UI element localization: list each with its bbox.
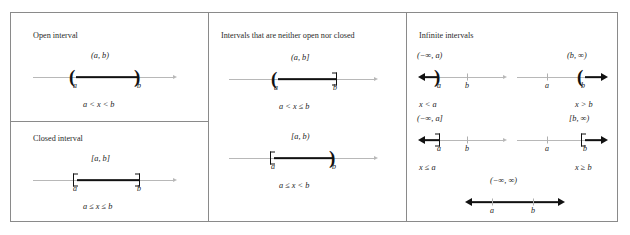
heading-infinite-intervals: Infinite intervals xyxy=(419,31,473,40)
notation-open: (a, b) xyxy=(91,51,109,60)
endpoint-label-b: b xyxy=(332,162,336,171)
numberline-neg-inf-open-a: ) a b xyxy=(417,67,515,87)
endpoint-label-a: a xyxy=(271,162,275,171)
axis-arrow-right-icon xyxy=(374,77,378,81)
infinity-arrow-left-icon xyxy=(418,136,425,144)
endpoint-label-a: a xyxy=(437,144,441,153)
endpoint-label-a: a xyxy=(274,83,278,92)
notation-closed: [a, b] xyxy=(91,154,110,163)
infinity-arrow-right-icon xyxy=(601,73,608,81)
infinity-arrow-right-icon xyxy=(558,198,565,206)
interval-segment xyxy=(76,76,139,78)
tick-b xyxy=(467,137,468,144)
notation-half-open-left: [a, b) xyxy=(291,132,309,141)
endpoint-label-b: b xyxy=(137,81,141,90)
axis-line xyxy=(517,77,595,78)
numberline-half-open-left: ) a b xyxy=(229,148,389,168)
numberline-closed-b-inf: a b xyxy=(515,130,613,150)
inequality-closed: a ≤ x ≤ b xyxy=(83,202,112,211)
numberline-neg-inf-closed-a: a b xyxy=(417,130,515,150)
numberline-closed: a b xyxy=(33,170,183,190)
interval-segment xyxy=(77,179,139,181)
tick-a xyxy=(547,137,548,144)
notation-open-b-inf: (b, ∞) xyxy=(567,51,587,60)
inequality-x-ge-b: x ≥ b xyxy=(575,163,592,172)
axis-arrow-right-icon xyxy=(173,75,177,79)
inequality-half-open-right: a < x ≤ b xyxy=(279,102,309,111)
endpoint-label-b: b xyxy=(465,81,469,90)
panel-closed-interval: Closed interval [a, b] a b a ≤ x ≤ b xyxy=(11,122,208,222)
numberline-half-open-right: ( a b xyxy=(229,69,389,89)
endpoint-label-a: a xyxy=(490,206,494,215)
panel-half-open-intervals: Intervals that are neither open nor clos… xyxy=(209,13,406,222)
endpoint-label-b: b xyxy=(581,81,585,90)
numberline-open: ( ) a b xyxy=(33,67,183,87)
endpoint-label-a: a xyxy=(73,184,77,193)
inequality-half-open-left: a ≤ x < b xyxy=(279,181,309,190)
heading-neither-open-nor-closed: Intervals that are neither open nor clos… xyxy=(221,31,355,40)
endpoint-label-b: b xyxy=(465,144,469,153)
tick-a xyxy=(547,74,548,81)
tick-a xyxy=(492,199,493,206)
endpoint-label-b: b xyxy=(333,83,337,92)
infinity-arrow-left-icon xyxy=(418,73,425,81)
interval-notation-figure: Open interval (a, b) ( ) a b a < x < b C… xyxy=(10,12,618,222)
notation-closed-b-inf: [b, ∞) xyxy=(569,114,589,123)
endpoint-label-b: b xyxy=(531,206,535,215)
interval-segment xyxy=(278,78,336,80)
notation-neg-inf-closed-a: (−∞, a] xyxy=(417,114,443,123)
axis-arrow-right-icon xyxy=(503,138,507,142)
numberline-all-reals: a b xyxy=(465,192,575,212)
axis-arrow-right-icon xyxy=(503,75,507,79)
notation-neg-inf-open-a: (−∞, a) xyxy=(417,51,442,60)
axis-arrow-right-icon xyxy=(173,178,177,182)
inequality-x-lt-a: x < a xyxy=(419,100,437,109)
heading-open-interval: Open interval xyxy=(33,31,78,40)
interval-segment xyxy=(274,157,334,159)
endpoint-label-a: a xyxy=(73,81,77,90)
inequality-x-gt-b: x > b xyxy=(575,100,593,109)
endpoint-label-b: b xyxy=(583,144,587,153)
notation-half-open-right: (a, b] xyxy=(291,53,309,62)
endpoint-label-a: a xyxy=(437,81,441,90)
numberline-open-b-inf: ( a b xyxy=(515,67,613,87)
panel-open-interval: Open interval (a, b) ( ) a b a < x < b xyxy=(11,13,208,121)
notation-all-reals: (−∞, ∞) xyxy=(490,176,517,185)
inequality-x-le-a: x ≤ a xyxy=(419,163,436,172)
axis-arrow-right-icon xyxy=(374,156,378,160)
tick-b xyxy=(467,74,468,81)
inequality-open: a < x < b xyxy=(83,100,114,109)
endpoint-label-b: b xyxy=(137,184,141,193)
heading-closed-interval: Closed interval xyxy=(33,134,83,143)
panel-infinite-intervals: Infinite intervals (−∞, a) ) a b x < a (… xyxy=(407,13,619,222)
tick-b xyxy=(533,199,534,206)
endpoint-label-a: a xyxy=(545,81,549,90)
infinity-arrow-left-icon xyxy=(465,198,472,206)
interval-segment xyxy=(472,201,558,203)
infinity-arrow-right-icon xyxy=(601,136,608,144)
endpoint-label-a: a xyxy=(545,144,549,153)
